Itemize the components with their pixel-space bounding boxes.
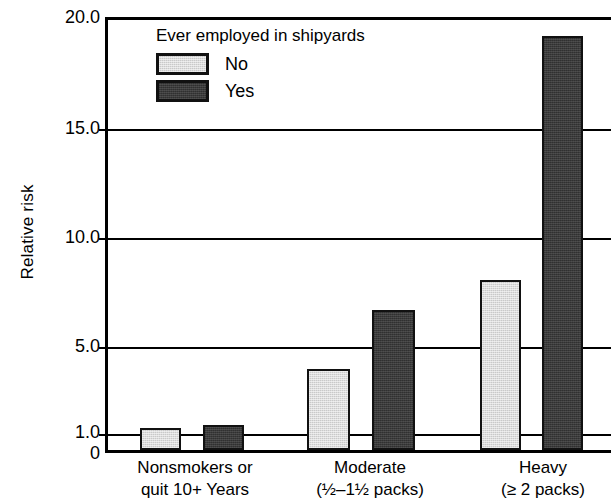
y-tick-label-1: 1.0 bbox=[44, 423, 100, 441]
legend-swatch-yes-icon bbox=[156, 80, 209, 102]
y-tick-label-20: 20.0 bbox=[44, 8, 100, 26]
tick-mark-10 bbox=[99, 238, 108, 240]
x-group-label-heavy-line2: (≥ 2 packs) bbox=[443, 479, 616, 501]
relative-risk-bar-chart: Relative risk 20.0 15.0 10.0 5.0 1.0 0 E… bbox=[0, 0, 616, 504]
legend-item-no: No bbox=[156, 53, 456, 75]
legend: Ever employed in shipyards No Yes bbox=[156, 26, 456, 107]
x-group-label-moderate-line1: Moderate bbox=[334, 458, 406, 477]
legend-label-yes: Yes bbox=[225, 82, 254, 100]
bar-moderate-no bbox=[307, 369, 350, 450]
tick-mark-5 bbox=[99, 347, 108, 349]
y-axis-tick-labels: 20.0 15.0 10.0 5.0 1.0 0 bbox=[0, 0, 100, 504]
gridline-10 bbox=[108, 238, 611, 240]
bar-heavy-yes bbox=[542, 36, 583, 450]
bar-nonsmokers-no bbox=[140, 428, 181, 450]
y-tick-label-5: 5.0 bbox=[44, 337, 100, 355]
bar-moderate-yes bbox=[372, 310, 415, 450]
legend-label-no: No bbox=[225, 55, 248, 73]
legend-swatch-no-icon bbox=[156, 53, 209, 75]
gridline-15 bbox=[108, 129, 611, 131]
x-group-label-heavy: Heavy (≥ 2 packs) bbox=[443, 457, 616, 501]
tick-mark-15 bbox=[99, 129, 108, 131]
plot-area: Ever employed in shipyards No Yes bbox=[105, 17, 611, 453]
y-tick-label-10: 10.0 bbox=[44, 228, 100, 246]
tick-mark-1 bbox=[99, 434, 108, 436]
legend-item-yes: Yes bbox=[156, 80, 456, 102]
x-axis-labels: Nonsmokers or quit 10+ Years Moderate (½… bbox=[105, 457, 611, 504]
bar-nonsmokers-yes bbox=[203, 425, 244, 450]
x-group-label-heavy-line1: Heavy bbox=[519, 458, 567, 477]
y-tick-label-15: 15.0 bbox=[44, 119, 100, 137]
bar-heavy-no bbox=[480, 280, 521, 450]
gridline-1 bbox=[108, 434, 611, 436]
x-group-label-nonsmokers-line1: Nonsmokers or bbox=[137, 458, 252, 477]
gridline-5 bbox=[108, 347, 611, 349]
legend-title: Ever employed in shipyards bbox=[156, 26, 456, 46]
